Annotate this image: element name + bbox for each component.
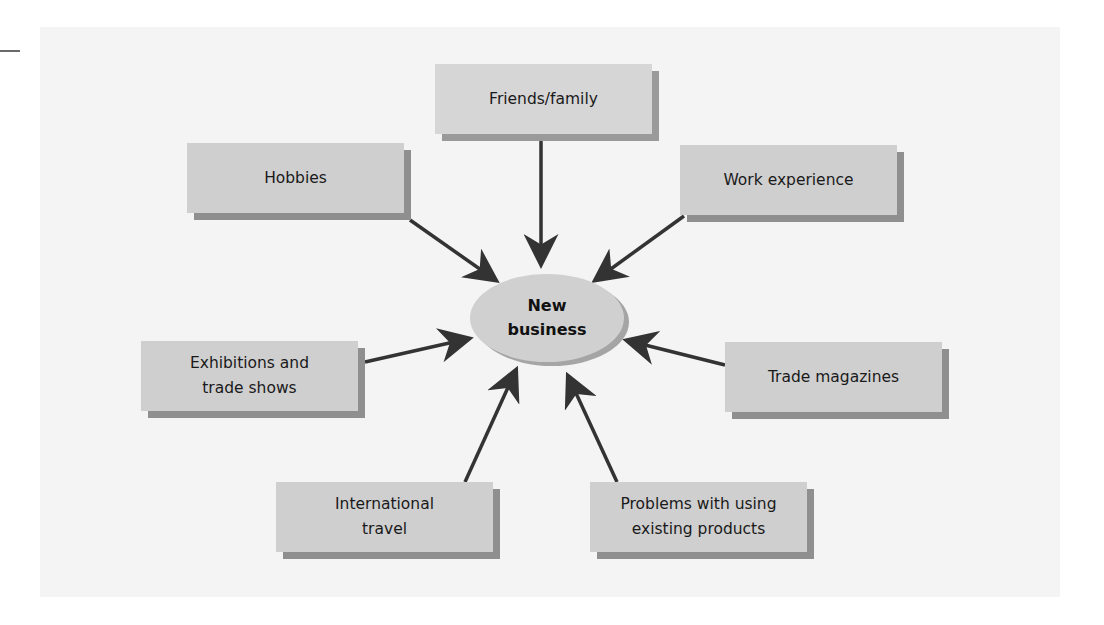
arrow-hobbies <box>410 220 494 279</box>
box-hobbies: Hobbies <box>187 143 404 213</box>
box-friends-family: Friends/family <box>435 64 652 134</box>
box-label: Problems with using existing products <box>620 492 776 542</box>
box-label: Friends/family <box>489 87 598 112</box>
box-label: Work experience <box>723 168 853 193</box>
arrow-exhibitions <box>365 339 467 362</box>
center-label: New business <box>507 294 586 342</box>
box-label: Trade magazines <box>768 365 899 390</box>
box-trade-magazines: Trade magazines <box>725 342 942 412</box>
box-international-travel: International travel <box>276 482 493 552</box>
box-label: International travel <box>335 492 434 542</box>
box-label: Hobbies <box>264 166 327 191</box>
arrow-international-travel <box>465 372 515 482</box>
arrow-trade-magazines <box>629 341 725 365</box>
center-node-new-business: New business <box>470 274 624 362</box>
box-work-experience: Work experience <box>680 145 897 215</box>
arrow-work-experience <box>597 216 684 279</box>
box-exhibitions: Exhibitions and trade shows <box>141 341 358 411</box>
arrow-problems <box>569 378 617 482</box>
box-label: Exhibitions and trade shows <box>190 351 309 401</box>
box-problems: Problems with using existing products <box>590 482 807 552</box>
